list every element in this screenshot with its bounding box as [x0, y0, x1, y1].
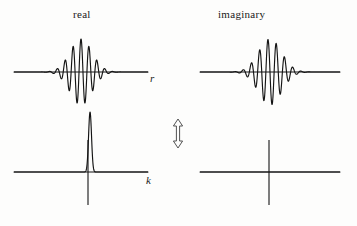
fourier-transform-pair-figure: real imaginary r k: [0, 0, 357, 226]
plot-real-momentum: [14, 112, 148, 205]
waveform-real-momentum: [14, 112, 148, 172]
figure-canvas: [0, 0, 357, 226]
plot-imaginary-momentum: [200, 140, 340, 205]
waveform-real-position: [14, 39, 148, 103]
plot-real-position: [14, 39, 148, 103]
plot-imaginary-position: [200, 40, 340, 105]
fourier-transform-double-arrow: [173, 119, 182, 148]
waveform-imaginary-position: [200, 40, 340, 105]
